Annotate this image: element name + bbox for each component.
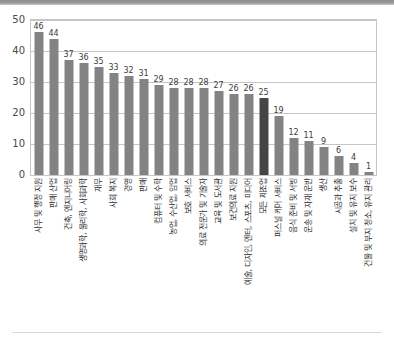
x-axis-tick-label: 퍼스널 케어 서비스 (274, 178, 282, 237)
x-axis-tick-label: 재무 (94, 178, 102, 192)
bar-value-label: 12 (288, 129, 298, 137)
bar-value-label: 37 (63, 51, 73, 59)
bar[interactable] (364, 172, 373, 175)
top-decorative-band (0, 0, 394, 5)
bar-value-label: 28 (183, 79, 193, 87)
bar-group: 36 (76, 20, 91, 175)
bar-value-label: 4 (351, 154, 356, 162)
x-axis-tick-label: 건물 및 부지 청소, 유지 관리 (364, 178, 372, 267)
bar-group: 35 (91, 20, 106, 175)
y-axis-tick-label: 40 (12, 46, 25, 56)
x-axis-tick-label: 사회 복지 (109, 178, 117, 208)
bar[interactable] (289, 138, 298, 175)
y-axis-tick-label: 20 (12, 108, 25, 118)
bar[interactable] (124, 76, 133, 175)
bar-value-label: 35 (93, 58, 103, 66)
bars-layer: 4644373635333231292828282726262519121196… (31, 20, 376, 175)
bar-value-label: 27 (213, 82, 223, 90)
x-axis-tick-label: 판매 (139, 178, 147, 192)
bar-value-label: 6 (336, 147, 341, 155)
bar-value-label: 36 (78, 54, 88, 62)
bar-group: 4 (346, 20, 361, 175)
bar[interactable] (184, 88, 193, 175)
x-axis-category-labels: 사무 및 행정 지원판매 산업건축, 엔지니어링생명과학, 물리학, 사회과학재… (31, 178, 376, 328)
bar[interactable] (34, 32, 43, 175)
bar-group: 9 (316, 20, 331, 175)
bottom-divider (12, 332, 382, 333)
bar-value-label: 26 (228, 85, 238, 93)
x-axis-tick-label: 보호 서비스 (184, 178, 192, 214)
y-axis-tick-label: 30 (12, 77, 25, 87)
bar[interactable] (169, 88, 178, 175)
x-axis-tick-label: 농업, 수산업, 임업 (169, 178, 177, 235)
x-axis-tick-label: 모든 제조업 (259, 178, 267, 214)
bar-value-label: 28 (168, 79, 178, 87)
bar-group: 27 (211, 20, 226, 175)
bar-value-label: 33 (108, 64, 118, 72)
x-axis-tick-label: 예술, 디자인, 엔터, 스포츠, 미디어 (244, 178, 252, 285)
bar-group: 28 (196, 20, 211, 175)
bar[interactable] (79, 63, 88, 175)
x-axis-tick-label: 의료 전문가 및 기술자 (199, 178, 207, 246)
bar-value-label: 29 (153, 76, 163, 84)
y-axis-tick-label: 10 (12, 139, 25, 149)
x-axis-tick-label: 건축, 엔지니어링 (64, 178, 72, 230)
bar-value-label: 31 (138, 70, 148, 78)
bar[interactable] (109, 73, 118, 175)
bar-group: 32 (121, 20, 136, 175)
bar-group: 6 (331, 20, 346, 175)
bar[interactable] (94, 67, 103, 176)
bar-group: 1 (361, 20, 376, 175)
x-axis-tick-label: 시공과 추출 (334, 178, 342, 214)
bar[interactable] (154, 85, 163, 175)
x-axis-tick-label: 생산 (319, 178, 327, 192)
bar[interactable] (229, 94, 238, 175)
bar-group: 12 (286, 20, 301, 175)
x-axis-tick-label: 컴퓨터 및 수학 (154, 178, 162, 224)
bar-value-label: 19 (273, 107, 283, 115)
bar-group: 28 (181, 20, 196, 175)
bar-group: 25 (256, 20, 271, 175)
bar-group: 46 (31, 20, 46, 175)
bar[interactable] (274, 116, 283, 175)
bar-value-label: 32 (123, 67, 133, 75)
bar[interactable] (334, 156, 343, 175)
bar-value-label: 11 (303, 132, 313, 140)
x-axis-tick-label: 음식 준비 및 서빙 (289, 178, 297, 233)
bar-group: 37 (61, 20, 76, 175)
bar-highlighted[interactable] (259, 98, 268, 176)
y-axis-tick-label: 50 (12, 15, 25, 25)
gridline (31, 175, 376, 176)
bar-value-label: 28 (198, 79, 208, 87)
bar-value-label: 26 (243, 85, 253, 93)
bar-group: 33 (106, 20, 121, 175)
x-axis-tick-label: 보건의료 지원 (229, 178, 237, 221)
x-axis-tick-label: 판매 산업 (49, 178, 57, 208)
bar-group: 31 (136, 20, 151, 175)
bar-group: 26 (226, 20, 241, 175)
bar[interactable] (319, 147, 328, 175)
bar-group: 26 (241, 20, 256, 175)
x-axis-tick-label: 경영 (124, 178, 132, 192)
bar-group: 44 (46, 20, 61, 175)
bar-value-label: 25 (258, 89, 268, 97)
bar-group: 11 (301, 20, 316, 175)
bar-value-label: 9 (321, 138, 326, 146)
x-axis-tick-label: 사무 및 행정 지원 (34, 178, 42, 233)
bar-value-label: 44 (48, 30, 58, 38)
x-axis-tick-label: 교육 및 도서관 (214, 178, 222, 224)
bar[interactable] (49, 39, 58, 175)
bar[interactable] (244, 94, 253, 175)
bar[interactable] (349, 163, 358, 175)
y-axis: 01020304050 (0, 19, 28, 176)
bar[interactable] (214, 91, 223, 175)
x-axis-tick-label: 설치 및 유지 보수 (349, 178, 357, 233)
bar-value-label: 46 (33, 23, 43, 31)
bar[interactable] (64, 60, 73, 175)
bar-group: 28 (166, 20, 181, 175)
bar[interactable] (304, 141, 313, 175)
bar[interactable] (139, 79, 148, 175)
bar[interactable] (199, 88, 208, 175)
bar-group: 29 (151, 20, 166, 175)
bar-group: 19 (271, 20, 286, 175)
